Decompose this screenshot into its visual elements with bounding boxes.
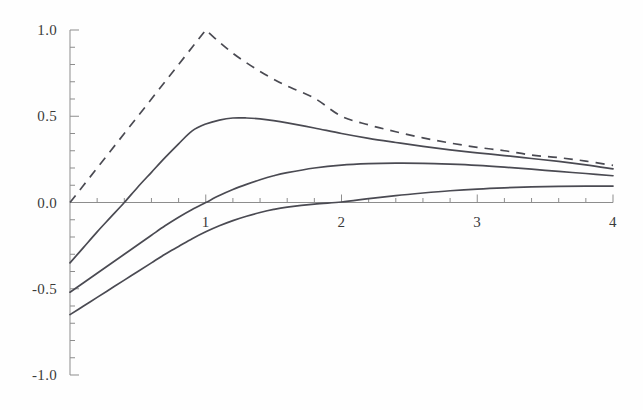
- x-tick-label: 1: [202, 214, 210, 230]
- y-tick-label: -1.0: [32, 367, 57, 383]
- x-tick-label: 2: [338, 214, 346, 230]
- plot-figure: -1.0-0.50.00.51.0 1234: [0, 0, 643, 410]
- x-tick-label: 3: [473, 214, 481, 230]
- y-tick-label: 0.0: [37, 195, 57, 211]
- x-tick-label: 4: [609, 214, 617, 230]
- plot-canvas: -1.0-0.50.00.51.0 1234: [0, 0, 643, 410]
- y-tick-label: -0.5: [32, 281, 57, 297]
- y-tick-label: 1.0: [37, 22, 57, 38]
- y-tick-label: 0.5: [37, 108, 57, 124]
- plot-background: [0, 0, 643, 410]
